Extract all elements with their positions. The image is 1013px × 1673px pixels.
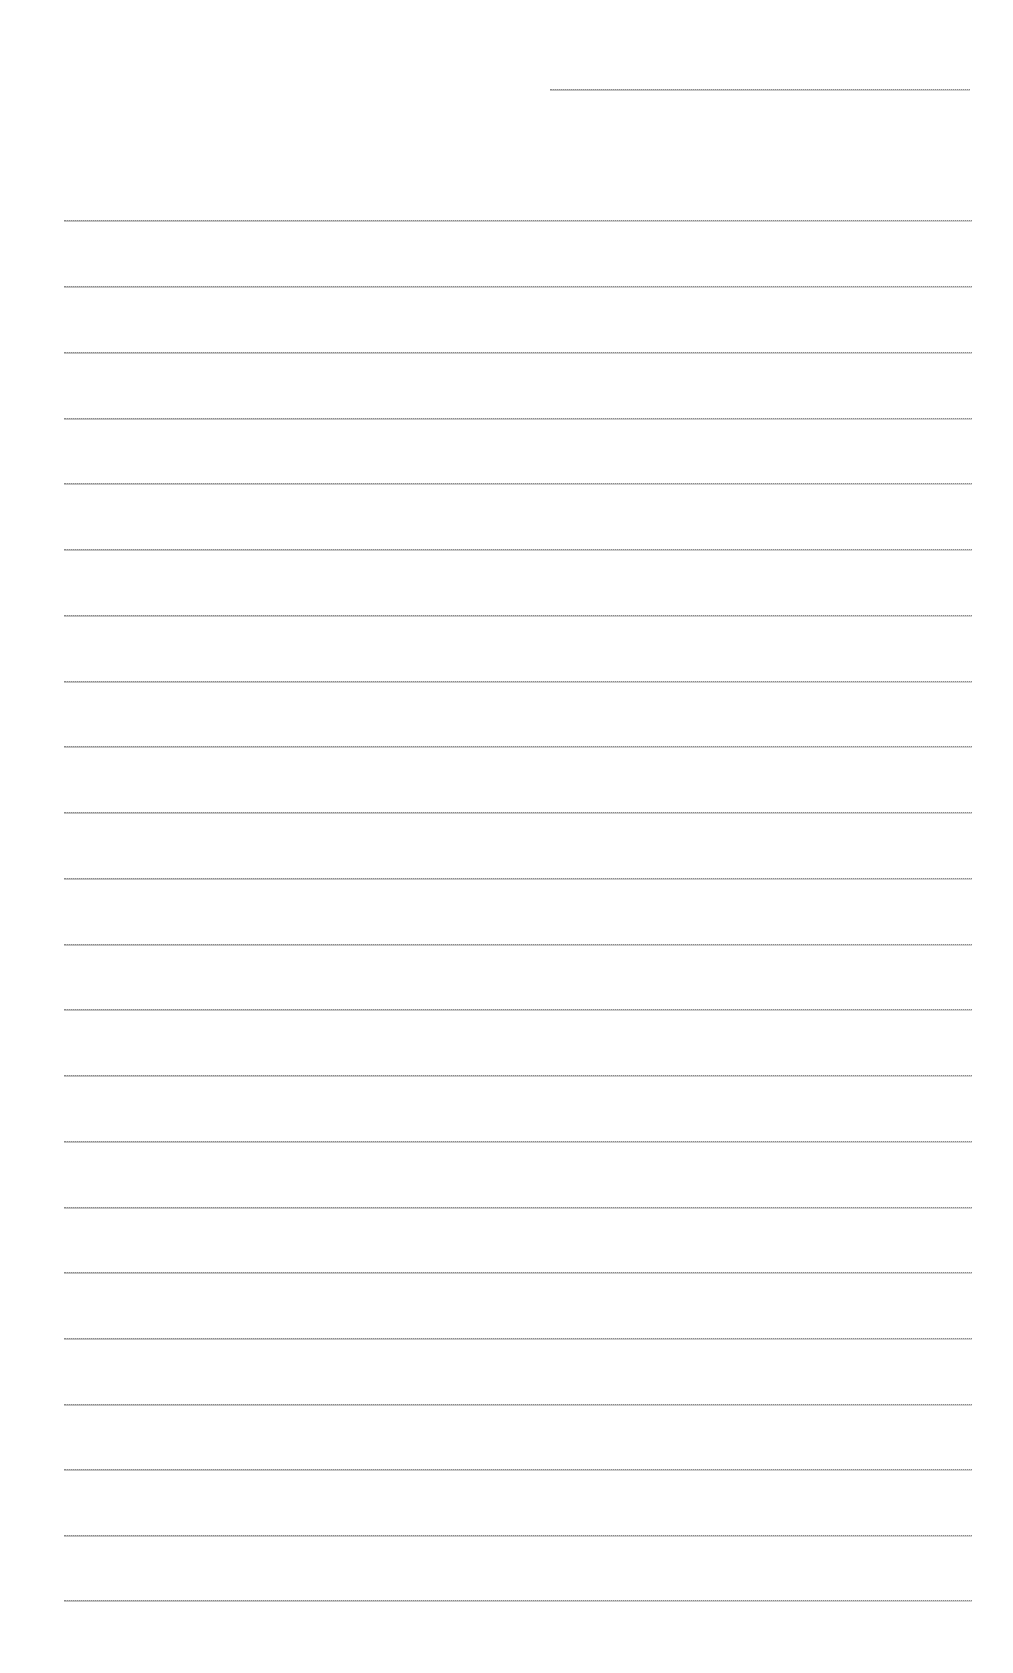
ruled-line <box>64 220 972 222</box>
ruled-line <box>64 352 972 354</box>
ruled-line <box>64 878 972 880</box>
header-rule <box>550 89 970 91</box>
lined-page <box>0 0 1013 1673</box>
ruled-line <box>64 1469 972 1471</box>
ruled-line <box>64 1404 972 1406</box>
ruled-line <box>64 681 972 683</box>
ruled-line <box>64 746 972 748</box>
ruled-line <box>64 549 972 551</box>
ruled-line <box>64 944 972 946</box>
ruled-line <box>64 286 972 288</box>
ruled-line <box>64 1338 972 1340</box>
ruled-line <box>64 1141 972 1143</box>
ruled-line <box>64 812 972 814</box>
ruled-line <box>64 1207 972 1209</box>
ruled-line <box>64 615 972 617</box>
ruled-line <box>64 1009 972 1011</box>
ruled-line <box>64 483 972 485</box>
ruled-line <box>64 1075 972 1077</box>
ruled-line <box>64 1600 972 1602</box>
ruled-line <box>64 1272 972 1274</box>
ruled-line <box>64 418 972 420</box>
ruled-line <box>64 1535 972 1537</box>
